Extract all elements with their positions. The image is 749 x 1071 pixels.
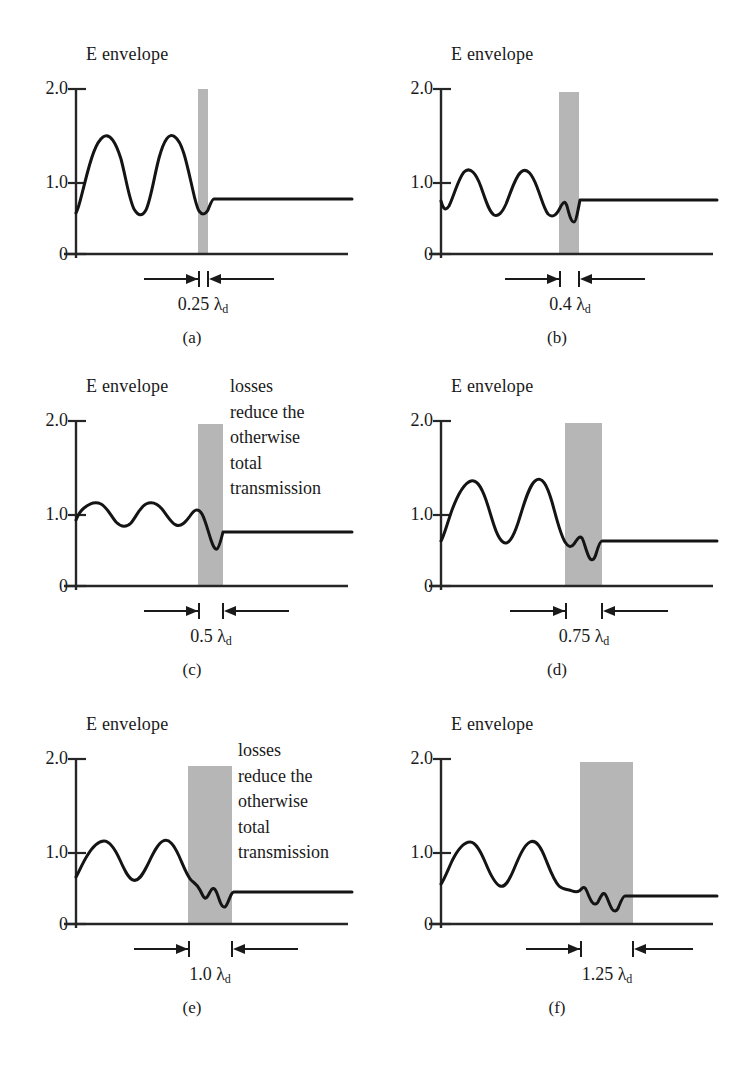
panel-letter-f: (f) xyxy=(377,998,737,1018)
dim-value-c: 0.5 xyxy=(190,626,213,646)
panel-letter-e: (e) xyxy=(12,998,372,1018)
panel-d: E envelope 2.0 1.0 0 0.75 λd xyxy=(377,368,737,716)
dim-arrow-right-f xyxy=(634,944,646,954)
dim-arrow-right-d xyxy=(603,606,615,616)
dim-arrow-right-a xyxy=(209,274,221,284)
panel-b: E envelope 2.0 1.0 0 0.4 λd xyxy=(377,36,737,384)
dim-value-b: 0.4 xyxy=(549,294,572,314)
envelope-curve-a xyxy=(76,136,352,215)
absorber-bar-d xyxy=(565,423,602,586)
dim-arrow-left-b xyxy=(547,274,559,284)
lambda-subscript-e: d xyxy=(225,972,231,986)
lambda-symbol-c: λ xyxy=(217,626,226,646)
absorber-bar-a xyxy=(198,89,208,254)
lambda-subscript-b: d xyxy=(585,302,591,316)
envelope-curve-f xyxy=(441,841,717,911)
absorber-bar-b xyxy=(559,92,579,254)
dim-arrow-left-d xyxy=(553,606,565,616)
absorber-bar-c xyxy=(198,424,223,586)
lambda-symbol-e: λ xyxy=(216,964,225,984)
panel-c: E envelope 2.0 1.0 0 losses reduce the o… xyxy=(12,368,372,716)
dim-label-b: 0.4 λd xyxy=(505,294,635,317)
dim-arrow-left-e xyxy=(176,944,188,954)
lambda-symbol-b: λ xyxy=(576,294,585,314)
lambda-subscript-a: d xyxy=(222,302,228,316)
dim-label-c: 0.5 λd xyxy=(146,626,276,649)
panel-letter-c: (c) xyxy=(12,660,372,680)
dim-arrow-right-c xyxy=(224,606,236,616)
dim-arrow-right-b xyxy=(580,274,592,284)
panel-letter-a: (a) xyxy=(12,328,372,348)
dim-arrow-left-f xyxy=(568,944,580,954)
dim-arrow-right-e xyxy=(233,944,245,954)
panel-letter-b: (b) xyxy=(377,328,737,348)
plot-area-e xyxy=(12,700,372,1048)
panel-letter-d: (d) xyxy=(377,660,737,680)
dim-arrow-left-c xyxy=(186,606,198,616)
dim-arrow-left-a xyxy=(186,274,198,284)
dim-label-e: 1.0 λd xyxy=(145,964,275,987)
dim-label-f: 1.25 λd xyxy=(542,964,672,987)
absorber-bar-e xyxy=(188,766,232,924)
panel-f: E envelope 2.0 1.0 0 1.25 λd xyxy=(377,700,737,1048)
plot-area-f xyxy=(377,700,737,1048)
dim-label-a: 0.25 λd xyxy=(138,294,268,317)
dim-value-d: 0.75 xyxy=(559,626,591,646)
dim-value-f: 1.25 xyxy=(582,964,614,984)
lambda-subscript-d: d xyxy=(603,634,609,648)
dim-value-e: 1.0 xyxy=(189,964,212,984)
panel-a: E envelope 2.0 1.0 0 0.25 λd xyxy=(12,36,372,384)
panel-e: E envelope 2.0 1.0 0 losses reduce the o… xyxy=(12,700,372,1048)
dim-label-d: 0.75 λd xyxy=(519,626,649,649)
lambda-subscript-f: d xyxy=(626,972,632,986)
figure-root: E envelope 2.0 1.0 0 0.25 λd xyxy=(0,0,749,1071)
lambda-subscript-c: d xyxy=(226,634,232,648)
dim-value-a: 0.25 xyxy=(178,294,210,314)
